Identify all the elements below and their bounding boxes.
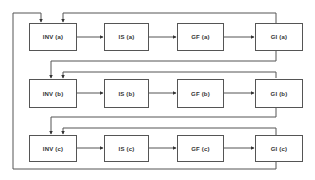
- node-label: GI (b): [271, 91, 288, 97]
- node-inv-a: INV (a): [29, 23, 77, 51]
- node-gf-b: GF (b): [177, 79, 224, 108]
- node-label: GF (a): [191, 34, 210, 40]
- node-label: GI (a): [271, 34, 288, 40]
- node-label: INV (b): [43, 91, 64, 97]
- node-gi-b: GI (b): [255, 79, 303, 108]
- node-is-c: IS (c): [104, 135, 149, 162]
- node-label: IS (c): [119, 146, 135, 152]
- node-inv-c: INV (c): [29, 135, 77, 162]
- node-label: INV (a): [43, 34, 63, 40]
- node-label: INV (c): [43, 146, 63, 152]
- node-inv-b: INV (b): [29, 79, 77, 108]
- node-label: GF (b): [191, 91, 210, 97]
- node-gi-a: GI (a): [255, 23, 303, 51]
- node-gf-c: GF (c): [177, 135, 224, 162]
- node-label: GF (c): [191, 146, 210, 152]
- node-is-b: IS (b): [104, 79, 149, 108]
- node-is-a: IS (a): [104, 23, 149, 51]
- node-label: GI (c): [271, 146, 288, 152]
- node-gf-a: GF (a): [177, 23, 224, 51]
- node-label: IS (b): [118, 91, 134, 97]
- node-label: IS (a): [119, 34, 135, 40]
- node-gi-c: GI (c): [255, 135, 303, 162]
